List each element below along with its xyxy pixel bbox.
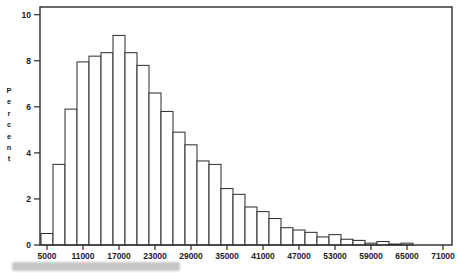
histogram-bar xyxy=(101,53,113,245)
x-axis-tick-label: 71000 xyxy=(431,251,455,261)
histogram-bar xyxy=(137,65,149,245)
x-axis-tick-label: 47000 xyxy=(287,251,311,261)
histogram-bar xyxy=(185,145,197,245)
y-axis-title-letter: n xyxy=(7,143,12,152)
y-axis-tick-label: 4 xyxy=(26,148,31,158)
histogram-screenshot: 0246810500011000170002300029000350004100… xyxy=(0,0,459,273)
y-axis-title-letter: P xyxy=(6,86,11,95)
y-axis-tick-label: 8 xyxy=(26,56,31,66)
histogram-bar xyxy=(77,62,89,245)
histogram-bar xyxy=(41,233,53,245)
histogram-bar xyxy=(233,194,245,245)
histogram-bar xyxy=(257,212,269,245)
y-axis-title-letter: e xyxy=(7,97,11,106)
y-axis-title-letter: r xyxy=(8,109,11,118)
y-axis-tick-label: 6 xyxy=(26,102,31,112)
x-axis-tick-label: 35000 xyxy=(215,251,239,261)
x-axis-tick-label: 5000 xyxy=(38,251,57,261)
x-axis-tick-label: 59000 xyxy=(359,251,383,261)
x-axis-tick-label: 17000 xyxy=(107,251,131,261)
y-axis-tick-label: 2 xyxy=(26,194,31,204)
histogram-bar xyxy=(161,111,173,245)
x-axis-tick-label: 11000 xyxy=(71,251,94,261)
y-axis-tick-label: 0 xyxy=(26,240,31,250)
blurred-caption-strip xyxy=(12,262,180,271)
histogram-bar xyxy=(197,161,209,245)
histogram-bar xyxy=(341,239,353,245)
y-axis-title-letter: t xyxy=(8,154,11,163)
y-axis-tick-label: 10 xyxy=(22,10,32,20)
x-axis-tick-label: 65000 xyxy=(395,251,419,261)
histogram-bar xyxy=(113,35,125,245)
histogram-bar xyxy=(89,56,101,245)
y-axis-title-letter: e xyxy=(7,132,11,141)
histogram-bar xyxy=(305,232,317,245)
x-axis-tick-label: 53000 xyxy=(323,251,347,261)
histogram-bar xyxy=(245,207,257,245)
histogram-bar xyxy=(329,235,341,245)
histogram-bar xyxy=(269,219,281,245)
histogram-bar xyxy=(221,189,233,245)
histogram-bar xyxy=(293,230,305,245)
histogram-bar xyxy=(209,164,221,245)
y-axis-title-letter: c xyxy=(7,120,11,129)
histogram-bar xyxy=(53,164,65,245)
y-axis-title: Percent xyxy=(6,86,11,163)
histogram-bar xyxy=(65,109,77,245)
histogram-bar xyxy=(317,237,329,245)
x-axis-tick-label: 41000 xyxy=(251,251,275,261)
x-axis-tick-label: 23000 xyxy=(143,251,167,261)
histogram-bar xyxy=(281,228,293,245)
histogram-chart: 0246810500011000170002300029000350004100… xyxy=(0,0,459,273)
x-axis-tick-label: 29000 xyxy=(179,251,203,261)
histogram-bar xyxy=(149,93,161,245)
histogram-bar xyxy=(173,132,185,245)
histogram-bar xyxy=(125,53,137,245)
